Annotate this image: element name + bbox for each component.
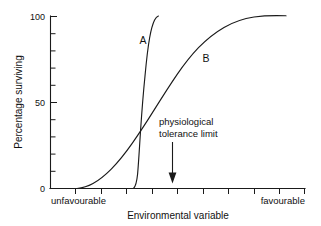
y-axis-title: Percentage surviving xyxy=(13,55,24,148)
tolerance-limit-arrow xyxy=(169,142,177,184)
chart-figure: 0 50 100 Percentage surviving unfavourab… xyxy=(0,0,321,226)
curve-series-b xyxy=(77,16,286,189)
arrow-head xyxy=(169,173,177,184)
y-tick-label-50: 50 xyxy=(35,98,45,108)
y-axis xyxy=(51,16,58,189)
y-tick-label-100: 100 xyxy=(30,12,45,22)
x-axis xyxy=(50,189,305,195)
annotation-line-2: tolerance limit xyxy=(159,128,218,139)
x-axis-right-end-label: favourable xyxy=(261,195,305,206)
chart-canvas: 0 50 100 Percentage surviving unfavourab… xyxy=(0,0,321,226)
curve-label-b: B xyxy=(202,52,209,64)
x-axis-left-end-label: unfavourable xyxy=(51,195,106,206)
y-tick-label-0: 0 xyxy=(40,184,45,194)
curve-label-a: A xyxy=(139,34,146,46)
x-axis-title: Environmental variable xyxy=(127,210,229,221)
annotation-line-1: physiological xyxy=(159,116,213,127)
